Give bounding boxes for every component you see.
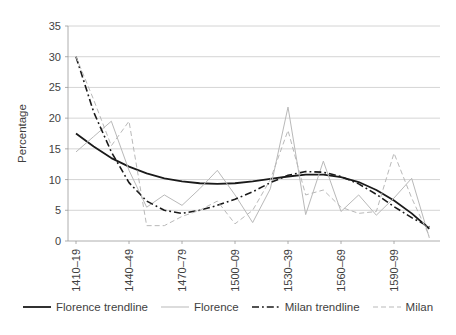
legend-item-milan-trendline: Milan trendline [252, 301, 360, 313]
series-line-milan-trendline [76, 57, 429, 227]
y-tick-label: 25 [49, 81, 61, 93]
x-tick-label: 1440–49 [123, 249, 135, 292]
legend-line-sample [23, 303, 51, 311]
chart-plot-area: 05101520253035Percentage1410–191440–4914… [0, 0, 456, 335]
legend-line-sample [373, 303, 401, 311]
y-tick-label: 20 [49, 112, 61, 124]
x-tick-label: 1590–99 [388, 249, 400, 292]
legend-line-sample [161, 303, 189, 311]
line-chart-figure: 05101520253035Percentage1410–191440–4914… [0, 0, 456, 335]
series-line-florence [76, 107, 429, 238]
x-tick-label: 1470–79 [176, 249, 188, 292]
y-tick-label: 5 [55, 204, 61, 216]
y-tick-label: 15 [49, 143, 61, 155]
legend-line-sample [252, 303, 280, 311]
x-tick-label: 1530–39 [282, 249, 294, 292]
legend-label: Florence trendline [56, 301, 148, 313]
y-tick-label: 0 [55, 235, 61, 247]
chart-legend: Florence trendlineFlorenceMilan trendlin… [0, 301, 456, 313]
y-axis-title: Percentage [16, 104, 28, 163]
series-line-milan [76, 57, 429, 236]
legend-item-milan: Milan [373, 301, 433, 313]
y-tick-label: 35 [49, 20, 61, 32]
y-tick-label: 10 [49, 174, 61, 186]
x-tick-label: 1560–69 [335, 249, 347, 292]
x-tick-label: 1410–19 [70, 249, 82, 292]
x-tick-label: 1500–09 [229, 249, 241, 292]
legend-label: Milan [406, 301, 433, 313]
legend-item-florence-trendline: Florence trendline [23, 301, 148, 313]
legend-label: Florence [194, 301, 239, 313]
y-tick-label: 30 [49, 51, 61, 63]
legend-label: Milan trendline [285, 301, 360, 313]
legend-item-florence: Florence [161, 301, 239, 313]
